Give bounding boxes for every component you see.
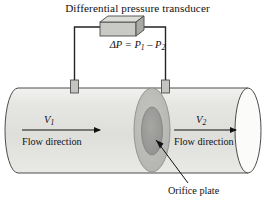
equation-lead: ΔP = P: [110, 39, 141, 50]
velocity-label-downstream: V2: [196, 115, 206, 127]
upstream-tap-body: [71, 80, 79, 93]
pipe-right-opening: [235, 88, 261, 173]
wire-left: [75, 27, 104, 44]
orifice-plate-label: Orifice plate: [168, 186, 219, 196]
diagram-title: Differential pressure transducer: [65, 3, 210, 14]
downstream-tap-body: [162, 80, 170, 93]
pressure-tap-upstream: [71, 44, 79, 93]
pressure-equation: ΔP = P1 – P2: [110, 40, 166, 52]
pipe-left-cap: [5, 88, 18, 173]
transducer-front-face: [100, 22, 136, 36]
flow-direction-label-upstream: Flow direction: [22, 137, 82, 147]
velocity-subscript-upstream: 1: [50, 118, 54, 127]
velocity-label-upstream: V1: [44, 115, 54, 127]
differential-pressure-transducer-box: [100, 16, 144, 36]
diagram-canvas: [0, 0, 275, 203]
orifice-plate-hole: [142, 107, 163, 155]
orifice-plate-assembly: [134, 88, 170, 172]
velocity-subscript-downstream: 2: [202, 118, 206, 127]
flow-direction-label-downstream: Flow direction: [174, 137, 234, 147]
equation-minus: – P: [145, 39, 162, 50]
equation-subscript-2: 2: [162, 43, 166, 52]
orifice-flow-meter-diagram: Differential pressure transducer ΔP = P1…: [0, 0, 275, 203]
